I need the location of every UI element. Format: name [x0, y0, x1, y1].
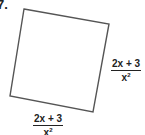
bottom-side-denominator: x2 [44, 126, 53, 135]
right-side-denominator: x2 [122, 71, 131, 83]
bottom-side-numerator: 2x + 3 [33, 113, 63, 126]
right-side-label: 2x + 3 x2 [111, 58, 141, 83]
square-outline [10, 9, 109, 112]
right-side-numerator: 2x + 3 [111, 58, 141, 71]
bottom-side-label: 2x + 3 x2 [33, 113, 63, 135]
